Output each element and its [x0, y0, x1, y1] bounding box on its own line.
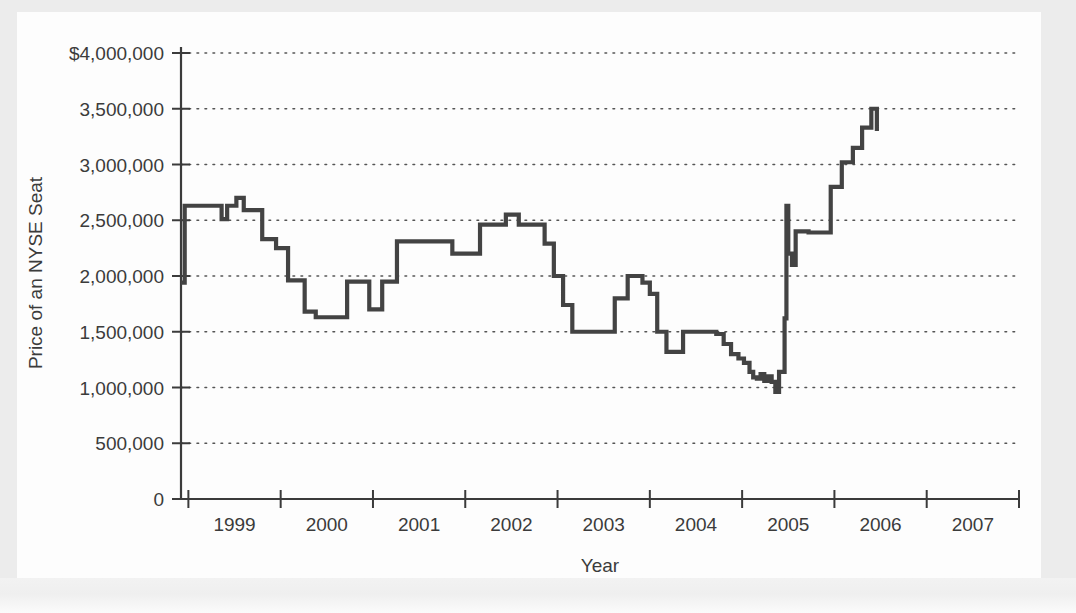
y-tick-label: 3,500,000 [79, 99, 164, 120]
gridlines [181, 53, 1019, 443]
y-tick-label: 1,500,000 [79, 322, 164, 343]
y-tick-label: 2,500,000 [79, 210, 164, 231]
y-axis-tick-labels: 0500,0001,000,0001,500,0002,000,0002,500… [69, 43, 164, 510]
data-series-line [181, 109, 877, 392]
y-tick-label: $4,000,000 [69, 43, 164, 64]
y-tick-label: 2,000,000 [79, 266, 164, 287]
y-tick-label: 1,000,000 [79, 378, 164, 399]
x-axis-tick-labels: 199920002001200220032004200520062007 [213, 514, 994, 535]
x-tick-label: 2000 [306, 514, 348, 535]
x-axis-title: Year [581, 555, 620, 576]
chart-figure: 0500,0001,000,0001,500,0002,000,0002,500… [0, 0, 1076, 613]
y-tick-label: 500,000 [95, 433, 164, 454]
x-tick-label: 2002 [490, 514, 532, 535]
y-tick-label: 0 [153, 489, 164, 510]
y-axis-title: Price of an NYSE Seat [25, 176, 46, 369]
x-tick-label: 2007 [952, 514, 994, 535]
x-tick-label: 2006 [859, 514, 901, 535]
y-tick-label: 3,000,000 [79, 155, 164, 176]
x-tick-label: 1999 [213, 514, 255, 535]
x-tick-label: 2004 [675, 514, 718, 535]
line-chart: 0500,0001,000,0001,500,0002,000,0002,500… [0, 0, 1076, 613]
figure-page: 0500,0001,000,0001,500,0002,000,0002,500… [0, 0, 1076, 613]
x-tick-label: 2001 [398, 514, 440, 535]
x-tick-label: 2003 [583, 514, 625, 535]
x-tick-label: 2005 [767, 514, 809, 535]
